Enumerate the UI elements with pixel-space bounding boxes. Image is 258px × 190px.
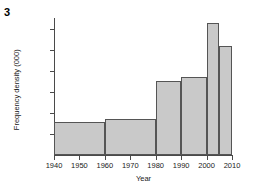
y-tick-mark <box>50 29 54 30</box>
x-tick-mark <box>232 156 233 160</box>
y-tick-mark <box>50 92 54 93</box>
x-axis-title: Year <box>54 175 233 183</box>
y-tick-mark <box>50 134 54 135</box>
histogram-chart: Frequency density (000) Year 24681012194… <box>0 0 258 190</box>
histogram-bar <box>105 119 156 155</box>
x-tick-mark <box>105 156 106 160</box>
histogram-bar <box>181 77 206 155</box>
y-tick-mark <box>50 71 54 72</box>
plot-area <box>54 18 232 155</box>
y-axis-title: Frequency density (000) <box>13 35 21 145</box>
y-tick-mark <box>50 50 54 51</box>
x-tick-mark <box>79 156 80 160</box>
x-tick-mark <box>181 156 182 160</box>
x-tick-mark <box>54 156 55 160</box>
x-tick-mark <box>130 156 131 160</box>
histogram-bar <box>156 81 181 155</box>
x-tick-label: 2010 <box>217 162 247 170</box>
histogram-bar <box>219 46 232 155</box>
y-tick-mark <box>50 113 54 114</box>
histogram-bar <box>54 122 105 155</box>
x-tick-mark <box>156 156 157 160</box>
x-tick-mark <box>207 156 208 160</box>
histogram-bar <box>207 23 220 155</box>
